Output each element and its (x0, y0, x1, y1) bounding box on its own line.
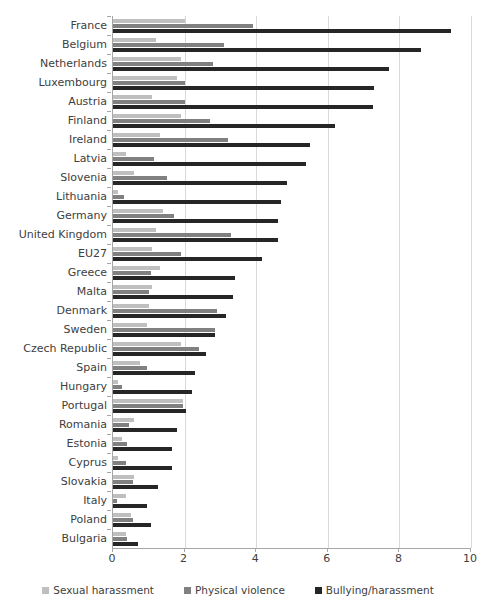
bar (113, 124, 335, 128)
legend-item: Sexual harassment (42, 584, 154, 596)
x-tick-label: 4 (240, 552, 270, 565)
bar (113, 247, 152, 251)
bar (113, 57, 181, 61)
category-label: Italy (0, 495, 107, 507)
bar (113, 485, 158, 489)
category-label: Slovenia (0, 172, 107, 184)
legend-item: Physical violence (184, 584, 285, 596)
x-tick-mark (112, 548, 113, 552)
category-tick-mark (107, 16, 111, 17)
category-label: EU27 (0, 248, 107, 260)
bar (113, 152, 126, 156)
bar-group (113, 472, 471, 491)
bar (113, 19, 185, 23)
bar (113, 537, 127, 541)
bar (113, 24, 253, 28)
bar-group (113, 149, 471, 168)
bar-group (113, 168, 471, 187)
bar (113, 328, 215, 332)
bar (113, 461, 126, 465)
bar-group (113, 244, 471, 263)
bar (113, 380, 118, 384)
bar-group (113, 187, 471, 206)
bar (113, 418, 134, 422)
category-label: Bulgaria (0, 533, 107, 545)
bar (113, 86, 374, 90)
bar (113, 266, 160, 270)
bar-group (113, 206, 471, 225)
bar (113, 323, 147, 327)
category-label: Netherlands (0, 58, 107, 70)
legend-label: Sexual harassment (53, 584, 154, 596)
bar (113, 295, 233, 299)
legend-swatch-icon (42, 587, 49, 594)
x-tick-mark (470, 548, 471, 552)
category-label: Luxembourg (0, 77, 107, 89)
bar (113, 285, 152, 289)
category-label: Ireland (0, 134, 107, 146)
bar (113, 133, 160, 137)
bar (113, 447, 172, 451)
bar (113, 214, 174, 218)
category-label: Malta (0, 286, 107, 298)
category-tick-mark (107, 54, 111, 55)
bar (113, 176, 167, 180)
bar (113, 361, 140, 365)
bar (113, 233, 231, 237)
category-label: Latvia (0, 153, 107, 165)
category-label: Hungary (0, 381, 107, 393)
bar (113, 157, 154, 161)
category-tick-mark (107, 168, 111, 169)
bar (113, 100, 185, 104)
category-tick-mark (107, 206, 111, 207)
chart-legend: Sexual harassmentPhysical violenceBullyi… (0, 584, 476, 596)
bar (113, 371, 195, 375)
category-tick-mark (107, 434, 111, 435)
category-label: Estonia (0, 438, 107, 450)
category-tick-mark (107, 35, 111, 36)
bar (113, 390, 192, 394)
legend-swatch-icon (315, 587, 322, 594)
category-tick-mark (107, 187, 111, 188)
category-label: Belgium (0, 39, 107, 51)
bar (113, 333, 215, 337)
x-tick-label: 6 (312, 552, 342, 565)
bar (113, 76, 177, 80)
category-tick-mark (107, 73, 111, 74)
bar (113, 271, 151, 275)
bar (113, 399, 183, 403)
plot-area (112, 16, 471, 548)
bar (113, 143, 310, 147)
bar-group (113, 35, 471, 54)
category-label: Portugal (0, 400, 107, 412)
bar (113, 304, 149, 308)
x-tick-mark (255, 548, 256, 552)
bar (113, 352, 206, 356)
legend-label: Bullying/harassment (326, 584, 434, 596)
bar (113, 200, 281, 204)
category-tick-mark (107, 320, 111, 321)
bar (113, 228, 156, 232)
bar-group (113, 529, 471, 548)
category-label: France (0, 20, 107, 32)
bar (113, 542, 138, 546)
bar (113, 475, 134, 479)
bar-group (113, 510, 471, 529)
category-tick-mark (107, 453, 111, 454)
bar (113, 513, 131, 517)
x-axis-line (112, 548, 470, 549)
bar (113, 162, 306, 166)
bar (113, 252, 181, 256)
bar (113, 114, 181, 118)
category-tick-mark (107, 111, 111, 112)
bar-group (113, 282, 471, 301)
bar-group (113, 339, 471, 358)
bar (113, 62, 213, 66)
bar (113, 385, 122, 389)
bar-group (113, 491, 471, 510)
category-label: Sweden (0, 324, 107, 336)
category-label: Germany (0, 210, 107, 222)
bar-group (113, 130, 471, 149)
bar-group (113, 225, 471, 244)
